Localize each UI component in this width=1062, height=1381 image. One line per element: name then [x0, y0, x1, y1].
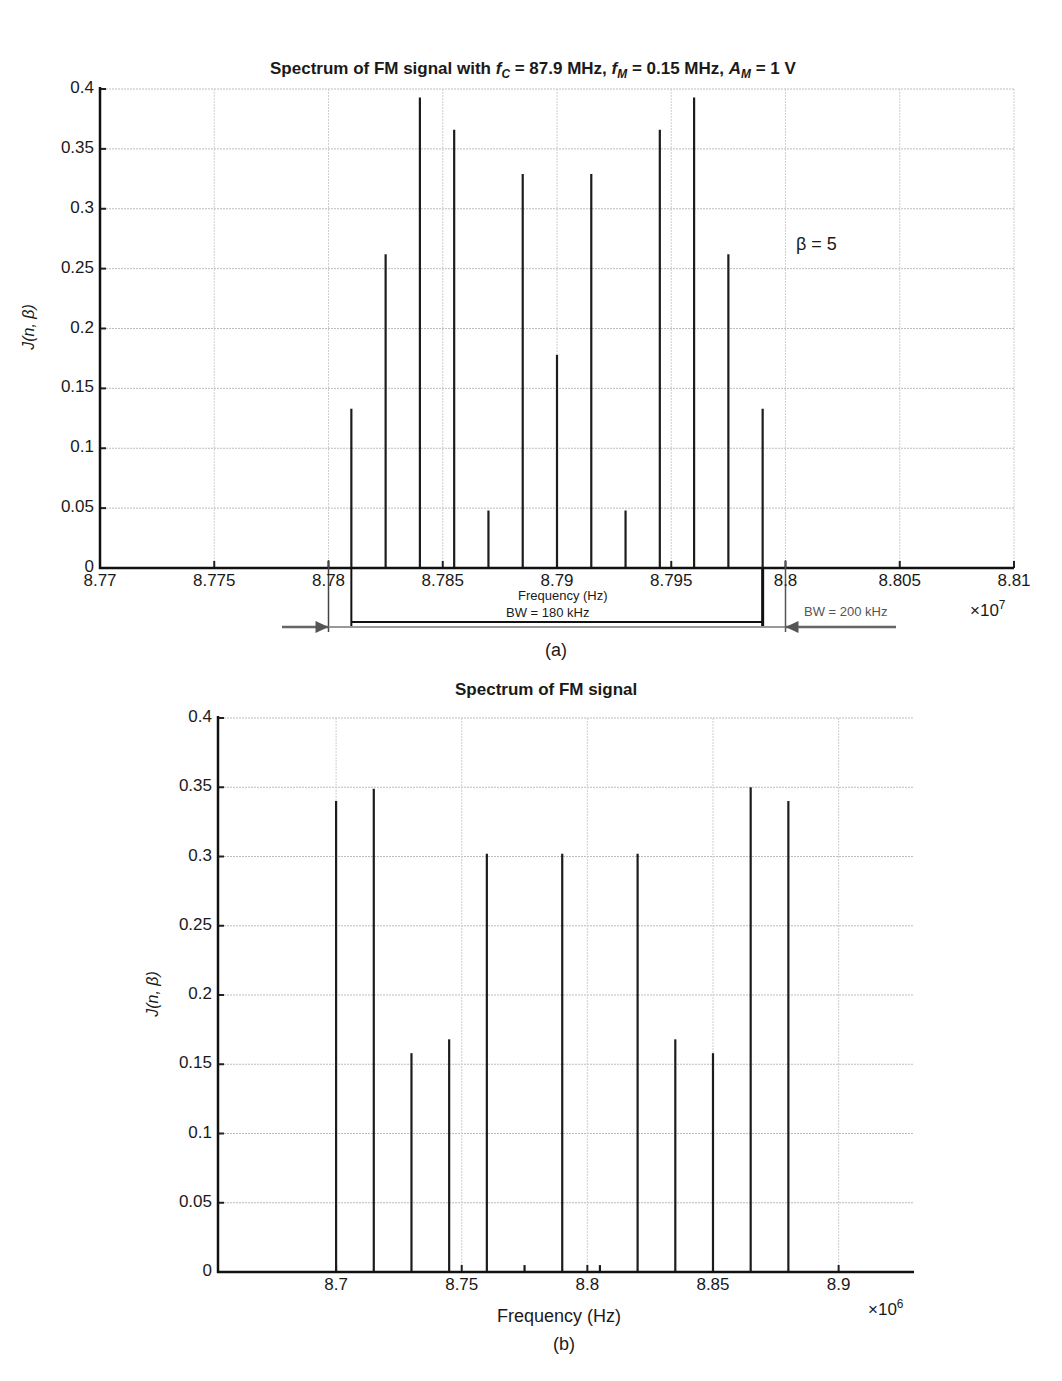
x-tick-label: 8.8 [576, 1275, 600, 1295]
y-tick-label: 0.35 [179, 776, 212, 796]
multiplier-exp: 6 [897, 1297, 904, 1311]
spectral-lines [336, 787, 788, 1272]
figure-b-plot [0, 0, 1062, 1381]
x-tick-label: 8.7 [324, 1275, 348, 1295]
grid [218, 718, 914, 1272]
figure-b-ylabel: J(n, β) [144, 971, 162, 1017]
y-tick-label: 0.1 [188, 1123, 212, 1143]
figure-b-x-multiplier: ×106 [868, 1297, 903, 1320]
x-tick-label: 8.75 [445, 1275, 478, 1295]
y-tick-label: 0.4 [188, 707, 212, 727]
y-tick-label: 0 [203, 1261, 212, 1281]
y-tick-label: 0.3 [188, 846, 212, 866]
y-tick-label: 0.05 [179, 1192, 212, 1212]
y-tick-label: 0.15 [179, 1053, 212, 1073]
multiplier-base: ×10 [868, 1300, 897, 1319]
x-tick-label: 8.85 [696, 1275, 729, 1295]
y-tick-label: 0.25 [179, 915, 212, 935]
x-tick-label: 8.9 [827, 1275, 851, 1295]
figure-b-xlabel: Frequency (Hz) [497, 1306, 621, 1327]
figure-b-caption: (b) [553, 1334, 575, 1355]
y-tick-label: 0.2 [188, 984, 212, 1004]
